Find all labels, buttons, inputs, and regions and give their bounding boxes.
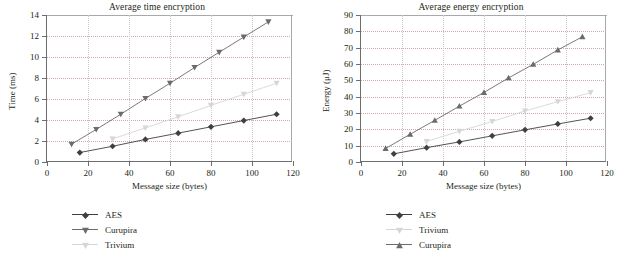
data-point-curupira xyxy=(118,112,124,118)
x-axis-tick-label: 20 xyxy=(84,168,93,178)
x-axis-tick-label: 80 xyxy=(207,168,216,178)
data-point-curupira xyxy=(142,96,148,102)
data-point-curupira xyxy=(93,127,99,133)
legend-marker-icon xyxy=(386,239,412,251)
legend-label: Curupira xyxy=(419,240,451,250)
x-axis-tick-label: 40 xyxy=(125,168,134,178)
data-point-curupira xyxy=(530,61,536,67)
legend: AESCurupiraTrivium xyxy=(72,207,137,252)
x-axis-tick xyxy=(293,161,294,166)
y-axis-tick-label: 90 xyxy=(344,10,353,20)
chart-panel-energy: Average energy encryption 01020304050607… xyxy=(314,0,628,256)
x-axis-tick xyxy=(607,161,608,166)
series-layer xyxy=(361,15,607,162)
chart-panel-time: Average time encryption 0246810121402040… xyxy=(0,0,314,256)
x-axis-tick-label: 100 xyxy=(559,168,573,178)
data-point-curupira xyxy=(432,117,438,123)
x-axis-tick-label: 0 xyxy=(45,168,50,178)
legend-item-aes[interactable]: AES xyxy=(386,207,451,222)
data-point-trivium xyxy=(424,139,430,145)
x-axis-tick-label: 80 xyxy=(521,168,530,178)
y-axis-tick-label: 8 xyxy=(35,73,40,83)
y-axis-tick-label: 0 xyxy=(349,157,354,167)
y-axis-tick-label: 6 xyxy=(35,94,40,104)
x-axis-tick-label: 100 xyxy=(245,168,259,178)
legend-item-curupira[interactable]: Curupira xyxy=(386,237,451,252)
legend-marker-icon xyxy=(72,209,98,221)
data-point-aes xyxy=(391,151,397,157)
legend-label: Trivium xyxy=(105,240,134,250)
data-point-trivium xyxy=(110,136,116,142)
plot-area-time: 02468101214020406080100120Message size (… xyxy=(46,15,292,162)
y-axis-tick-label: 12 xyxy=(30,31,39,41)
legend-label: AES xyxy=(105,210,122,220)
series-line-trivium xyxy=(113,83,277,139)
y-axis-tick-label: 50 xyxy=(344,75,353,85)
y-axis-tick-label: 2 xyxy=(35,136,40,146)
data-point-aes xyxy=(555,121,561,127)
x-axis-tick-label: 0 xyxy=(359,168,364,178)
series-layer xyxy=(47,15,293,162)
x-axis-tick-label: 60 xyxy=(166,168,175,178)
x-axis-title: Message size (bytes) xyxy=(47,181,292,191)
legend-marker-icon xyxy=(386,224,412,236)
data-point-curupira xyxy=(216,50,222,56)
y-axis-title-energy: Energy (μJ) xyxy=(321,70,331,112)
y-axis-tick-label: 14 xyxy=(30,10,39,20)
data-point-curupira xyxy=(456,103,462,109)
data-point-curupira xyxy=(579,34,585,40)
legend-label: Trivium xyxy=(419,225,448,235)
data-point-aes xyxy=(175,130,181,136)
y-axis-tick-label: 60 xyxy=(344,59,353,69)
plot-area-energy: 0102030405060708090020406080100120Messag… xyxy=(360,15,606,162)
legend-marker-icon xyxy=(386,209,412,221)
data-point-aes xyxy=(208,124,214,130)
data-point-aes xyxy=(241,117,247,123)
legend-item-trivium[interactable]: Trivium xyxy=(72,237,137,252)
y-axis-tick-label: 0 xyxy=(35,157,40,167)
data-point-curupira xyxy=(167,81,173,87)
data-point-curupira xyxy=(192,65,198,71)
legend-marker-icon xyxy=(72,224,98,236)
legend-marker-icon xyxy=(72,239,98,251)
y-axis-tick-label: 10 xyxy=(30,52,39,62)
data-point-aes xyxy=(110,143,116,149)
data-point-curupira xyxy=(383,145,389,151)
x-axis-tick-label: 120 xyxy=(286,168,300,178)
data-point-curupira xyxy=(69,142,75,148)
x-axis-tick-label: 20 xyxy=(398,168,407,178)
data-point-aes xyxy=(142,136,148,142)
legend-item-curupira[interactable]: Curupira xyxy=(72,222,137,237)
data-point-curupira xyxy=(481,89,487,95)
legend: AESTriviumCurupira xyxy=(386,207,451,252)
data-point-curupira xyxy=(241,35,247,41)
data-point-curupira xyxy=(555,47,561,53)
data-point-aes xyxy=(274,111,280,117)
data-point-aes xyxy=(489,133,495,139)
legend-item-aes[interactable]: AES xyxy=(72,207,137,222)
data-point-aes xyxy=(77,149,83,155)
legend-label: Curupira xyxy=(105,225,137,235)
series-line-trivium xyxy=(427,93,591,142)
y-axis-tick-label: 30 xyxy=(344,108,353,118)
chart-title-energy: Average energy encryption xyxy=(314,2,628,12)
data-point-curupira xyxy=(407,131,413,137)
legend-label: AES xyxy=(419,210,436,220)
chart-title-time: Average time encryption xyxy=(0,2,314,12)
data-point-aes xyxy=(522,127,528,133)
data-point-curupira xyxy=(506,75,512,81)
data-point-aes xyxy=(424,145,430,151)
data-point-aes xyxy=(456,139,462,145)
x-axis-tick-label: 40 xyxy=(439,168,448,178)
y-axis-title-time: Time (ms) xyxy=(7,73,17,110)
x-axis-title: Message size (bytes) xyxy=(361,181,606,191)
legend-item-trivium[interactable]: Trivium xyxy=(386,222,451,237)
data-point-curupira xyxy=(265,19,271,25)
x-axis-tick-label: 60 xyxy=(480,168,489,178)
y-axis-tick-label: 70 xyxy=(344,43,353,53)
figure-two-line-charts: Average time encryption 0246810121402040… xyxy=(0,0,628,256)
y-axis-tick-label: 80 xyxy=(344,26,353,36)
y-axis-tick-label: 40 xyxy=(344,92,353,102)
y-axis-tick-label: 20 xyxy=(344,124,353,134)
y-axis-tick-label: 4 xyxy=(35,115,40,125)
